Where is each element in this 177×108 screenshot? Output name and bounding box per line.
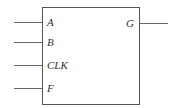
output-label-g: G [126, 18, 134, 29]
input-wire-b [14, 42, 42, 43]
input-label-b: B [47, 37, 54, 48]
input-label-clk: CLK [47, 60, 68, 71]
input-wire-clk [14, 65, 42, 66]
output-wire-g [139, 23, 168, 24]
input-wire-a [14, 22, 42, 23]
input-wire-f [14, 88, 42, 89]
input-label-f: F [47, 83, 54, 94]
input-label-a: A [47, 17, 54, 28]
